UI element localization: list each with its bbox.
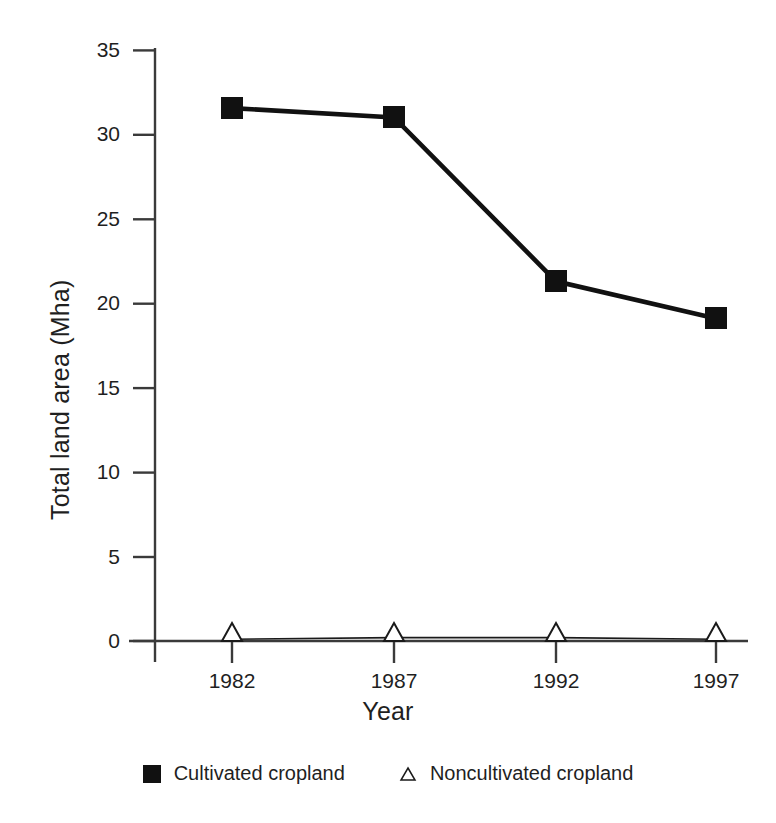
y-tick-label-5: 5	[60, 545, 120, 569]
legend-item-noncultivated-cropland: Noncultivated cropland	[399, 762, 633, 785]
x-tick-label-1987: 1987	[349, 669, 439, 693]
legend-item-cultivated-cropland: Cultivated cropland	[143, 762, 345, 785]
x-tick-label-1992: 1992	[511, 669, 601, 693]
data-point-cultivated-1982	[221, 97, 243, 119]
data-point-cultivated-1997	[705, 307, 727, 329]
series-line-cultivated	[232, 108, 716, 318]
y-tick-label-35: 35	[60, 38, 120, 62]
filled-square-icon	[143, 765, 161, 783]
series-line-noncultivated	[232, 638, 716, 640]
y-tick-label-0: 0	[60, 629, 120, 653]
legend-label-cultivated-cropland: Cultivated cropland	[174, 762, 345, 785]
data-point-cultivated-1987	[383, 106, 405, 128]
x-axis-title: Year	[0, 697, 776, 726]
data-point-noncultivated-1992	[546, 623, 566, 641]
y-tick-label-30: 30	[60, 122, 120, 146]
data-point-noncultivated-1997	[706, 623, 726, 641]
x-axis-ticks	[232, 641, 716, 663]
data-point-cultivated-1992	[545, 270, 567, 292]
open-triangle-icon	[399, 765, 417, 783]
x-tick-label-1982: 1982	[187, 669, 277, 693]
y-axis-title: Total land area (Mha)	[46, 280, 75, 520]
y-axis-ticks	[133, 50, 155, 641]
legend-label-noncultivated-cropland: Noncultivated cropland	[430, 762, 633, 785]
y-tick-label-25: 25	[60, 207, 120, 231]
chart-figure: 35 30 25 20 15 10 5 0 1982 1987 1992 199…	[0, 0, 776, 823]
axis-lines	[129, 48, 748, 662]
chart-legend: Cultivated cropland Noncultivated cropla…	[0, 762, 776, 785]
x-tick-label-1997: 1997	[671, 669, 761, 693]
data-point-noncultivated-1982	[222, 623, 242, 641]
series-cultivated-cropland	[221, 97, 727, 329]
series-noncultivated-cropland	[222, 623, 726, 641]
data-point-noncultivated-1987	[384, 623, 404, 641]
